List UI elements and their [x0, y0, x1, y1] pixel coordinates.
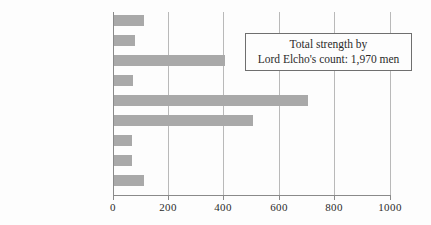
annotation-total-strength: Total strength by Lord Elcho's count: 1,… — [245, 33, 412, 71]
x-tick-1000 — [390, 195, 391, 200]
bar-kilmarnock — [114, 75, 133, 86]
x-tick-label: 1000 — [378, 201, 402, 213]
annotation-line-1: Total strength by — [290, 37, 368, 52]
bar-pitsligo — [114, 15, 144, 26]
x-tick-200 — [168, 195, 169, 200]
bar-lord-ogilvy — [114, 95, 308, 106]
x-tick-0 — [113, 195, 114, 200]
x-axis-spine — [113, 195, 391, 196]
x-tick-400 — [223, 195, 224, 200]
x-tick-label: 0 — [110, 201, 116, 213]
bar-lord-lewis-gordon — [114, 55, 225, 66]
x-tick-label: 200 — [159, 201, 177, 213]
bar-elcho — [114, 175, 144, 186]
bar-balmerino — [114, 155, 132, 166]
x-tick-600 — [279, 195, 280, 200]
bar-hussars — [114, 135, 132, 146]
x-tick-label: 800 — [325, 201, 343, 213]
bar-irish-piquets — [114, 115, 253, 126]
horizontal-bar-chart: Pitsligo Perthshire Lord Lewis Gordon Ki… — [0, 0, 431, 225]
x-tick-label: 400 — [214, 201, 232, 213]
x-tick-800 — [334, 195, 335, 200]
annotation-line-2: Lord Elcho's count: 1,970 men — [258, 52, 400, 67]
bar-perthshire — [114, 35, 135, 46]
x-tick-label: 600 — [270, 201, 288, 213]
